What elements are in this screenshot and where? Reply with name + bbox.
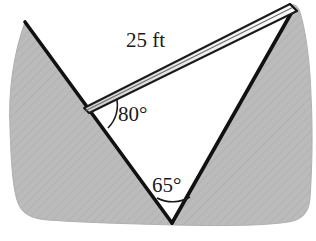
angle-label-80: 80° <box>118 104 147 125</box>
geometry-figure: 25 ft 80° 65° <box>0 0 316 241</box>
ladder-length-label: 25 ft <box>126 30 165 51</box>
angle-label-65: 65° <box>152 175 181 196</box>
